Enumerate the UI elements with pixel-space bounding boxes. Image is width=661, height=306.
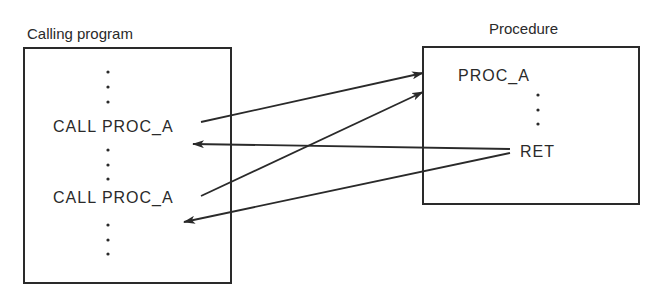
procedure-call-diagram: Calling program CALL PROC_A CALL PROC_A … <box>0 0 661 306</box>
return-arrow-1 <box>193 144 510 149</box>
procedure-title: Procedure <box>489 20 558 37</box>
ellipsis-top <box>106 70 109 103</box>
ellipsis-middle <box>106 148 109 180</box>
return-instruction: RET <box>520 143 555 160</box>
procedure-entry-label: PROC_A <box>458 67 530 85</box>
call-instruction-2: CALL PROC_A <box>53 189 174 207</box>
return-arrow-2 <box>184 153 510 222</box>
calling-program-title: Calling program <box>27 25 133 42</box>
call-arrow-1 <box>201 73 423 122</box>
ellipsis-bottom <box>106 223 109 255</box>
call-instruction-1: CALL PROC_A <box>53 118 174 136</box>
procedure-box <box>423 47 639 204</box>
ellipsis-procedure <box>536 93 539 125</box>
calling-program-box <box>24 48 231 283</box>
